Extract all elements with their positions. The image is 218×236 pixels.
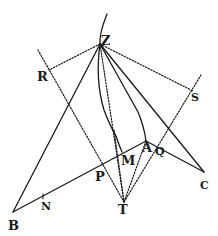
label-S: S xyxy=(191,92,199,103)
line-S-T xyxy=(124,75,201,202)
label-R: R xyxy=(37,70,48,83)
label-N: N xyxy=(41,201,51,212)
label-T: T xyxy=(118,203,128,216)
line-ZR xyxy=(49,44,100,70)
line-ZS xyxy=(100,44,193,91)
label-Q: Q xyxy=(155,146,165,157)
label-M: M xyxy=(121,154,135,167)
label-A: A xyxy=(142,141,152,154)
label-B: B xyxy=(8,219,19,232)
label-Z: Z xyxy=(101,34,111,47)
line-ZB xyxy=(13,44,100,212)
label-C: C xyxy=(200,180,209,191)
label-P: P xyxy=(95,170,105,183)
